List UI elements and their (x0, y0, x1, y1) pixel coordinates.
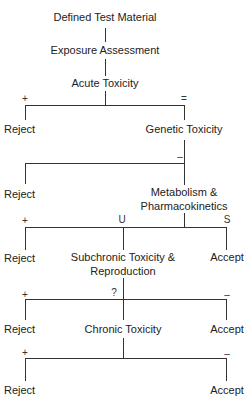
node-subchronic-line1: Subchronic Toxicity & (71, 251, 175, 264)
node-subchronic-line2: Reproduction (90, 265, 155, 278)
branch-label-metabolism-unsafe: U (118, 215, 125, 225)
node-chronic-toxicity: Chronic Toxicity (85, 323, 162, 336)
outcome-accept-metabolism: Accept (210, 251, 244, 264)
node-acute-toxicity: Acute Toxicity (71, 77, 138, 90)
branch-label-chronic-positive: + (22, 348, 28, 358)
branch-label-metabolism-positive: + (22, 216, 28, 226)
outcome-reject-chronic: Reject (4, 384, 35, 397)
node-metabolism-line1: Metabolism & (151, 186, 218, 199)
branch-label-subchronic-negative: – (224, 290, 230, 300)
node-exposure-assessment: Exposure Assessment (51, 44, 160, 57)
outcome-reject-metabolism: Reject (4, 252, 35, 265)
branch-label-acute-positive: + (22, 94, 28, 104)
branch-label-subchronic-positive: + (22, 290, 28, 300)
branch-label-metabolism-safe: S (224, 215, 231, 225)
branch-label-acute-negative: = (181, 94, 187, 104)
outcome-accept-chronic: Accept (210, 384, 244, 397)
outcome-reject-genetic: Reject (4, 188, 35, 201)
node-metabolism-line2: Pharmacokinetics (141, 200, 228, 213)
branch-label-chronic-negative: – (224, 349, 230, 359)
outcome-reject-acute: Reject (4, 123, 35, 136)
branch-label-subchronic-uncertain: ? (111, 288, 117, 298)
node-genetic-toxicity: Genetic Toxicity (146, 123, 223, 136)
outcome-reject-subchronic: Reject (4, 323, 35, 336)
outcome-accept-subchronic: Accept (210, 323, 244, 336)
branch-label-genetic-negative: – (177, 152, 183, 162)
node-defined-test-material: Defined Test Material (53, 11, 156, 24)
